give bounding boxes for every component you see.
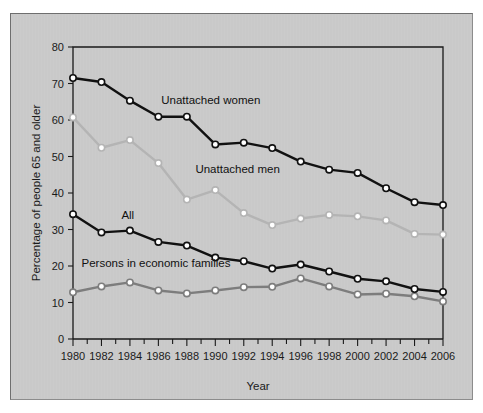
data-point [383,278,389,284]
series-label-persons-in-economic-families: Persons in economic families [82,257,231,269]
data-point [70,289,76,295]
data-point [241,139,247,145]
data-point [411,286,417,292]
data-point [155,287,161,293]
series-label-unattached-women: Unattached women [161,94,260,106]
series-annotations: Unattached womenUnattached menAllPersons… [82,94,280,269]
data-series-group [70,75,446,305]
data-point [354,276,360,282]
x-tick-label: 1994 [260,350,284,362]
x-tick-label: 1996 [288,350,312,362]
data-point [212,187,218,193]
data-point [98,283,104,289]
x-tick-label: 2002 [374,350,398,362]
data-point [411,199,417,205]
data-point [411,293,417,299]
data-point [383,291,389,297]
x-axis-title: Year [246,380,269,392]
data-point [440,298,446,304]
data-point [98,79,104,85]
x-tick-label: 2006 [431,350,455,362]
line-chart: 01020304050607080 1980198219841986198819… [0,0,483,413]
data-point [98,145,104,151]
data-point [269,265,275,271]
y-tick-label: 20 [52,260,64,272]
data-point [326,268,332,274]
data-point [155,114,161,120]
data-point [326,212,332,218]
x-tick-label: 2004 [402,350,426,362]
data-point [155,239,161,245]
data-point [440,289,446,295]
data-point [354,213,360,219]
x-axis-ticks: 1980198219841986198819901992199419961998… [61,339,455,362]
data-point [70,114,76,120]
x-tick-label: 1984 [118,350,142,362]
y-tick-label: 0 [58,333,64,345]
x-tick-label: 1980 [61,350,85,362]
data-point [411,231,417,237]
data-point [354,170,360,176]
data-point [440,231,446,237]
y-axis-title: Percentage of people 65 and older [30,105,42,282]
data-point [326,283,332,289]
data-point [212,287,218,293]
data-series [70,275,446,304]
x-tick-label: 1992 [232,350,256,362]
data-point [297,158,303,164]
x-tick-label: 1998 [317,350,341,362]
data-point [127,227,133,233]
y-tick-label: 70 [52,78,64,90]
data-point [70,75,76,81]
y-tick-label: 40 [52,187,64,199]
x-tick-label: 1990 [203,350,227,362]
data-point [212,141,218,147]
series-label-all: All [121,209,134,221]
data-point [326,166,332,172]
data-point [184,242,190,248]
data-point [184,290,190,296]
data-point [155,160,161,166]
y-axis-ticks: 01020304050607080 [52,41,73,345]
data-point [184,114,190,120]
data-point [241,284,247,290]
data-point [241,210,247,216]
data-point [241,258,247,264]
data-point [297,275,303,281]
x-tick-label: 1982 [89,350,113,362]
chart-figure: 01020304050607080 1980198219841986198819… [0,0,483,413]
series-label-unattached-men: Unattached men [195,163,279,175]
data-point [383,185,389,191]
y-tick-label: 10 [52,297,64,309]
data-point [297,215,303,221]
data-point [297,261,303,267]
data-point [184,196,190,202]
data-point [383,217,389,223]
y-tick-label: 50 [52,151,64,163]
data-point [354,291,360,297]
data-point [98,229,104,235]
data-point [127,279,133,285]
data-point [127,97,133,103]
data-point [440,202,446,208]
data-point [127,137,133,143]
x-tick-label: 1986 [146,350,170,362]
x-tick-label: 2000 [345,350,369,362]
data-point [269,222,275,228]
data-point [269,284,275,290]
data-point [70,211,76,217]
data-point [269,145,275,151]
y-tick-label: 30 [52,224,64,236]
y-tick-label: 80 [52,41,64,53]
y-tick-label: 60 [52,114,64,126]
x-tick-label: 1988 [175,350,199,362]
